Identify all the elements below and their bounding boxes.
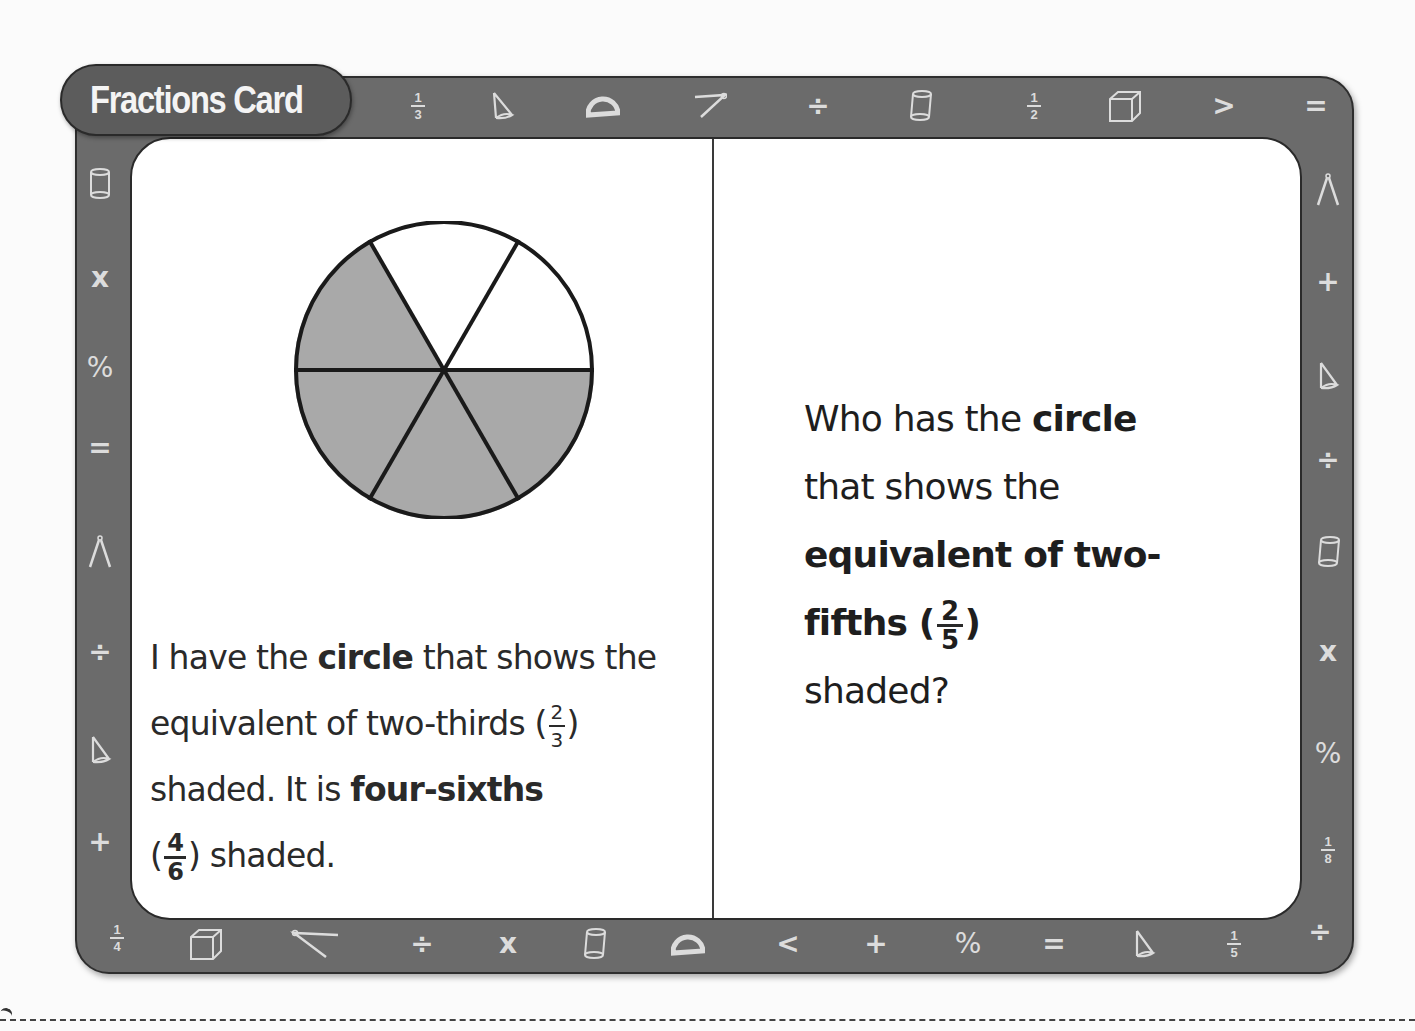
numerator: 1 xyxy=(113,923,120,936)
divide-icon: ÷ xyxy=(1308,440,1348,480)
cylinder-icon xyxy=(574,924,614,964)
compass-icon xyxy=(288,924,342,964)
bold-text: four-sixths xyxy=(350,770,543,809)
denominator: 2 xyxy=(1030,108,1037,121)
numerator: 1 xyxy=(414,91,421,104)
text: Who has the xyxy=(804,398,1032,439)
fraction-one-half-icon: 12 xyxy=(1014,86,1054,126)
numerator: 1 xyxy=(1030,91,1037,104)
text: that shows the xyxy=(804,466,1060,507)
pie-chart-four-sixths xyxy=(292,221,596,519)
divide-icon: ÷ xyxy=(402,924,442,964)
cube-icon xyxy=(186,924,226,964)
text: I have the xyxy=(150,638,318,677)
cone-icon xyxy=(1124,924,1164,964)
cone-icon xyxy=(1308,356,1348,396)
numerator: 2 xyxy=(551,700,563,724)
cylinder-icon xyxy=(80,164,120,204)
text: ) shaded. xyxy=(188,836,335,875)
cone-icon xyxy=(80,730,120,770)
bold-text: equivalent of two-fifths ( xyxy=(804,534,1161,643)
plus-icon: + xyxy=(1308,262,1348,302)
fraction-two-fifths: 25 xyxy=(937,599,963,652)
compass-icon xyxy=(1308,170,1348,210)
question-text: Who has the circle that shows the equiva… xyxy=(804,385,1244,725)
plus-icon: + xyxy=(856,924,896,964)
equals-icon: = xyxy=(1296,86,1336,126)
bold-text: circle xyxy=(1032,398,1137,439)
text: ( xyxy=(150,836,162,875)
percent-icon: % xyxy=(1308,734,1348,774)
bold-text: ) xyxy=(965,602,981,643)
divide-icon: ÷ xyxy=(1300,912,1340,952)
divide-icon: ÷ xyxy=(798,86,838,126)
equals-icon: = xyxy=(1034,924,1074,964)
card-title-tab: Fractions Card xyxy=(60,64,352,136)
text: shaded? xyxy=(804,670,949,711)
protractor-icon xyxy=(583,86,623,126)
divide-icon: ÷ xyxy=(80,632,120,672)
multiply-icon: x xyxy=(1308,632,1348,672)
protractor-icon xyxy=(668,924,708,964)
less-than-icon: < xyxy=(768,924,808,964)
equals-icon: = xyxy=(80,428,120,468)
percent-icon: % xyxy=(948,924,988,964)
fraction-four-sixths: 46 xyxy=(164,831,186,884)
denominator: 3 xyxy=(414,108,421,121)
fraction-one-eighth-icon: 18 xyxy=(1308,830,1348,870)
bold-text: circle xyxy=(318,638,414,677)
compass-icon xyxy=(690,86,730,126)
denominator: 4 xyxy=(113,940,120,953)
cube-icon xyxy=(1105,86,1145,126)
cone-icon xyxy=(483,86,523,126)
greater-than-icon: > xyxy=(1204,86,1244,126)
denominator: 6 xyxy=(167,860,183,884)
multiply-icon: x xyxy=(80,258,120,298)
numerator: 1 xyxy=(1230,929,1237,942)
numerator: 2 xyxy=(941,599,958,623)
card-title: Fractions Card xyxy=(90,79,303,122)
answer-text: I have the circle that shows the equival… xyxy=(150,625,710,889)
denominator: 5 xyxy=(941,628,958,652)
denominator: 5 xyxy=(1230,946,1237,959)
percent-icon: % xyxy=(80,348,120,388)
cut-line xyxy=(0,1019,1415,1021)
cylinder-icon xyxy=(1308,532,1348,572)
fraction-two-thirds: 23 xyxy=(549,700,565,752)
multiply-icon: x xyxy=(488,924,528,964)
fraction-one-quarter-icon: 14 xyxy=(97,918,137,958)
fraction-one-third-icon: 13 xyxy=(398,86,438,126)
cylinder-icon xyxy=(900,86,940,126)
card-body: I have the circle that shows the equival… xyxy=(130,137,1302,920)
numerator: 1 xyxy=(1324,835,1331,848)
compass-icon xyxy=(80,532,120,572)
fraction-bar xyxy=(549,725,565,727)
panel-divider xyxy=(712,139,714,918)
plus-icon: + xyxy=(80,822,120,862)
denominator: 3 xyxy=(551,728,563,752)
numerator: 4 xyxy=(167,831,183,855)
fraction-one-fifth-icon: 15 xyxy=(1214,924,1254,964)
denominator: 8 xyxy=(1324,852,1331,865)
